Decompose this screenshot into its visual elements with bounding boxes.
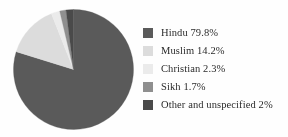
legend-item[interactable]: Christian 2.3% — [143, 60, 288, 78]
legend-swatch-christian — [143, 64, 153, 74]
legend-item-label: Christian 2.3% — [161, 63, 225, 75]
legend-item[interactable]: Hindu 79.8% — [143, 24, 288, 42]
legend-item[interactable]: Sikh 1.7% — [143, 78, 288, 96]
chart-legend: Hindu 79.8%Muslim 14.2%Christian 2.3%Sik… — [143, 24, 288, 114]
legend-item-label: Hindu 79.8% — [161, 27, 218, 39]
legend-item[interactable]: Muslim 14.2% — [143, 42, 288, 60]
legend-swatch-muslim — [143, 46, 153, 56]
pie-slice-group: Hindu 79.8%Muslim 14.2%Christian 2.3%Sik… — [14, 10, 134, 130]
pie-chart-graphic: Hindu 79.8%Muslim 14.2%Christian 2.3%Sik… — [13, 9, 134, 130]
legend-swatch-sikh — [143, 82, 153, 92]
legend-item-label: Muslim 14.2% — [161, 45, 225, 57]
pie-chart-figure: Hindu 79.8%Muslim 14.2%Christian 2.3%Sik… — [0, 0, 288, 137]
legend-item-label: Other and unspecified 2% — [161, 99, 273, 111]
legend-item[interactable]: Other and unspecified 2% — [143, 96, 288, 114]
pie-svg: Hindu 79.8%Muslim 14.2%Christian 2.3%Sik… — [13, 9, 134, 130]
legend-item-label: Sikh 1.7% — [161, 81, 206, 93]
legend-swatch-other — [143, 100, 153, 110]
legend-swatch-hindu — [143, 28, 153, 38]
